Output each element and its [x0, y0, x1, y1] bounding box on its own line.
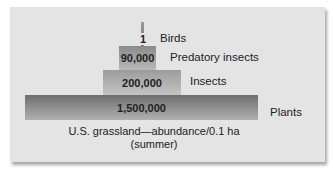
predatory-insects-value: 90,000 — [121, 52, 155, 64]
birds-label: Birds — [160, 32, 186, 44]
predatory-insects-label: Predatory insects — [170, 51, 259, 63]
insects-value: 200,000 — [122, 77, 162, 89]
caption-line-1: U.S. grassland—abundance/0.1 ha — [60, 125, 248, 138]
caption-line-2: (summer) — [60, 138, 248, 151]
insects-bar: 200,000 — [103, 70, 181, 95]
pyramid-panel: 1 Birds 90,000 Predatory insects 200,000… — [10, 7, 325, 162]
birds-value: 1 — [136, 33, 150, 45]
insects-label: Insects — [190, 75, 226, 87]
caption: U.S. grassland—abundance/0.1 ha (summer) — [60, 125, 248, 151]
plants-label: Plants — [270, 106, 302, 118]
plants-bar: 1,500,000 — [25, 95, 258, 120]
plants-value: 1,500,000 — [117, 102, 166, 114]
predatory-insects-bar: 90,000 — [119, 46, 156, 70]
